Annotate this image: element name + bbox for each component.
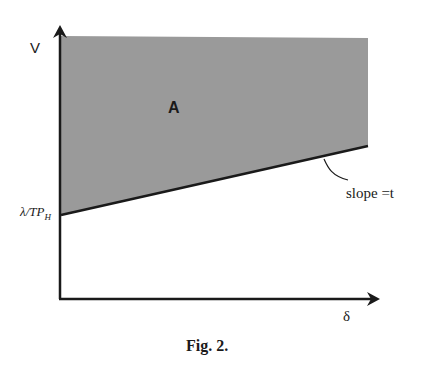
y-axis-label: V (30, 40, 40, 55)
intercept-label-subscript: H (44, 212, 51, 222)
slope-leader-line (324, 159, 348, 180)
region-label: A (168, 100, 180, 116)
x-axis-label: δ (343, 309, 350, 324)
figure-canvas (0, 0, 429, 365)
intercept-label-main: λ/TP (20, 204, 44, 219)
slope-label: slope =t (346, 186, 394, 201)
shaded-region-a (61, 36, 368, 215)
intercept-label: λ/TPH (20, 205, 51, 222)
figure-caption: Fig. 2. (186, 338, 228, 354)
